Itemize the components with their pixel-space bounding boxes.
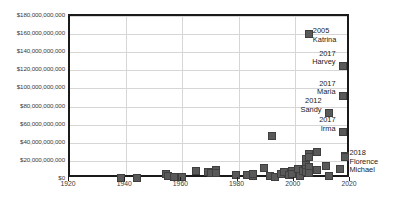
annotation-line: Michael [349, 166, 378, 174]
annotation-line: Harvey [312, 58, 335, 66]
x-axis-tick-mark [68, 177, 69, 181]
annotation-florence-michael: 2018FlorenceMichael [349, 149, 378, 174]
annotation-maria: 2017Maria [317, 80, 335, 97]
x-axis-tick-label: 1920 [60, 180, 75, 187]
x-axis-tick-mark [293, 177, 294, 181]
x-axis-tick-mark [349, 177, 350, 181]
x-axis-tick-label: 1940 [117, 180, 132, 187]
x-axis-tick-mark [180, 177, 181, 181]
annotation-sandy: 2012Sandy [301, 97, 322, 114]
x-axis-tick-label: 2020 [341, 180, 356, 187]
annotation-line: Irma [319, 125, 335, 133]
x-axis-tick-mark [124, 177, 125, 181]
x-axis-tick-mark [237, 177, 238, 181]
annotation-line: Sandy [301, 106, 322, 114]
annotation-line: Katrina [313, 36, 336, 44]
hurricane-damage-scatter-chart: $0$20,000,000,000$40,000,000,000$60,000,… [0, 0, 395, 204]
x-axis-tick-label: 2000 [285, 180, 300, 187]
annotation-harvey: 2017Harvey [312, 50, 335, 67]
x-axis-tick-label: 1980 [229, 180, 244, 187]
x-axis-tick-label: 1960 [173, 180, 188, 187]
annotation-katrina: 2005Katrina [313, 27, 336, 44]
annotation-irma: 2017Irma [319, 116, 335, 133]
